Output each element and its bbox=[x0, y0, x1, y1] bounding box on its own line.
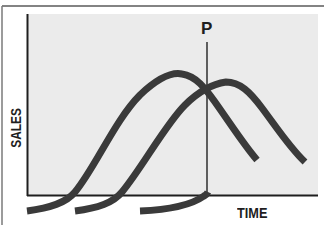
x-axis-label: TIME bbox=[237, 204, 267, 221]
diagram-canvas bbox=[0, 0, 324, 225]
y-axis-label: SALES bbox=[8, 110, 24, 147]
plot-panel bbox=[27, 14, 318, 195]
product-life-cycle-diagram: P TIME SALES bbox=[0, 0, 324, 225]
point-p-label: P bbox=[201, 19, 212, 39]
